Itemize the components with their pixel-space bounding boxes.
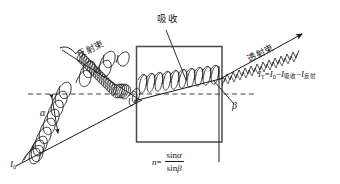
equation-snells-law: n = sinα sinβ: [152, 150, 184, 173]
label-angle-beta: β: [232, 101, 237, 111]
reflected-beam: [60, 47, 140, 100]
label-angle-alpha: α: [40, 108, 45, 118]
label-absorption: 吸收: [157, 14, 179, 24]
optics-refraction-figure: 吸收 反射束 透射束 I0 α β IT=I0−I吸收−I反射 n = sinα…: [0, 0, 340, 184]
snell-denominator: sinβ: [165, 162, 184, 173]
snell-den-fn: sin: [167, 163, 178, 173]
i0-subscript: 0: [13, 164, 16, 170]
snell-numerator: sinα: [165, 150, 184, 162]
refracted-beam: [129, 65, 224, 105]
snell-fraction: sinα sinβ: [165, 150, 184, 173]
eq-term2-sub: 吸收: [284, 73, 296, 79]
snell-num-fn: sin: [167, 150, 178, 160]
incident-beam: [16, 51, 142, 166]
equation-transmitted-intensity: IT=I0−I吸收−I反射: [258, 70, 316, 80]
absorption-leader-line: [166, 30, 186, 80]
eq-term3-sub: 反射: [304, 73, 316, 79]
snell-equals: =: [157, 157, 162, 167]
refracted-coils: [138, 65, 219, 93]
label-incident-intensity: I0: [10, 160, 16, 170]
snell-den-var: β: [177, 163, 181, 173]
snell-num-var: α: [177, 150, 182, 160]
